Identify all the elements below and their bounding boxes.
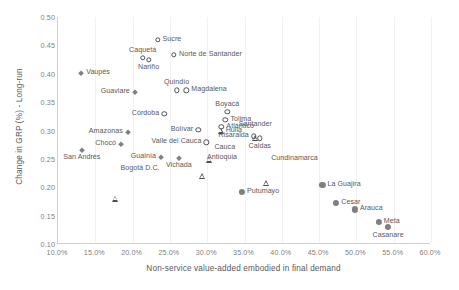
data-point-label: Guaviare xyxy=(101,89,130,96)
data-point-marker xyxy=(196,127,201,132)
x-tick-label: 40.0% xyxy=(270,248,291,257)
data-point-label: Magdalena xyxy=(191,87,227,94)
x-tick-label: 25.0% xyxy=(158,248,179,257)
y-axis-title: Change in GRP (%) - Long-run xyxy=(15,27,24,227)
x-tick-label: 15.0% xyxy=(84,248,105,257)
data-point-label: La Guajira xyxy=(327,182,360,189)
data-point-marker xyxy=(140,55,145,60)
data-point-marker xyxy=(155,37,160,42)
data-point-label: Putumayo xyxy=(247,189,279,196)
x-tick-label: 45.0% xyxy=(308,248,329,257)
plot-area: SucreCaquetáNariñoNorte de SantanderVaup… xyxy=(57,17,430,244)
data-point-label: Antioquia xyxy=(207,155,237,162)
data-point-label: Caquetá xyxy=(129,47,156,54)
data-point-label: Quindío xyxy=(164,79,189,86)
gridline-vertical xyxy=(319,17,320,243)
data-point-label: San Andrés xyxy=(63,154,100,161)
y-tick-label: 0.25 xyxy=(3,154,55,163)
y-tick-label: 0.45 xyxy=(3,41,55,50)
y-tick-label: 0.35 xyxy=(3,98,55,107)
y-tick-label: 0.40 xyxy=(3,69,55,78)
data-point-marker xyxy=(118,142,123,147)
data-point-marker xyxy=(257,136,262,141)
x-tick-label: 10.0% xyxy=(47,248,68,257)
y-axis-ticks: 0.100.150.200.250.300.350.400.450.50 xyxy=(0,17,55,244)
data-point-label: Valle del Cauca xyxy=(152,139,202,146)
data-point-marker xyxy=(79,147,84,152)
gridline-vertical xyxy=(431,17,432,243)
x-axis-title: Non-service value-added embodied in fina… xyxy=(57,264,430,273)
x-axis-ticks: 10.0%15.0%20.0%25.0%30.0%35.0%40.0%45.0%… xyxy=(0,248,459,260)
data-point-marker xyxy=(174,88,179,93)
y-tick-label: 0.50 xyxy=(3,13,55,22)
y-tick-label: 0.30 xyxy=(3,126,55,135)
data-point-marker xyxy=(79,71,84,76)
data-point-marker xyxy=(333,200,339,206)
x-tick-label: 30.0% xyxy=(196,248,217,257)
data-point-marker xyxy=(171,52,176,57)
data-point-marker xyxy=(125,129,130,134)
x-tick-label: 55.0% xyxy=(382,248,403,257)
gridline-vertical xyxy=(282,17,283,243)
data-point-label: Casanare xyxy=(373,232,404,239)
data-point-label: Vichada xyxy=(166,162,192,169)
data-point-label: Santander xyxy=(239,121,272,128)
data-point-label: Bolívar xyxy=(171,126,193,133)
x-tick-label: 35.0% xyxy=(233,248,254,257)
data-point-label: Risaralda xyxy=(218,133,248,140)
y-tick-label: 0.15 xyxy=(3,211,55,220)
gridline-vertical xyxy=(394,17,395,243)
data-point-marker xyxy=(184,88,189,93)
data-point-marker xyxy=(158,155,163,160)
data-point-label: Boyacá xyxy=(215,101,239,108)
data-point-label: Bogotá D.C. xyxy=(120,165,159,172)
data-point-label: Guainía xyxy=(131,154,156,161)
data-point-label: Cauca xyxy=(214,144,235,151)
data-point-marker xyxy=(204,140,209,145)
data-point-marker xyxy=(263,180,269,186)
data-point-label: Caldas xyxy=(249,143,271,150)
data-point-label: Amazonas xyxy=(89,128,123,135)
data-point-marker xyxy=(162,111,167,116)
x-tick-label: 60.0% xyxy=(420,248,441,257)
scatter-chart: 0.100.150.200.250.300.350.400.450.50 Suc… xyxy=(0,0,459,290)
data-point-marker xyxy=(176,155,181,160)
data-point-marker xyxy=(385,224,391,230)
data-point-label: Córdoba xyxy=(132,110,160,117)
data-point-label: Arauca xyxy=(360,206,383,213)
data-point-label: Norte de Santander xyxy=(179,51,242,58)
data-point-marker xyxy=(319,182,325,188)
data-point-label: Chocó xyxy=(95,141,116,148)
data-point-label: Cesar xyxy=(341,200,360,207)
data-point-label: Sucre xyxy=(163,36,182,43)
x-tick-label: 50.0% xyxy=(345,248,366,257)
data-point-label: Nariño xyxy=(138,64,159,71)
data-point-marker xyxy=(146,57,151,62)
y-tick-label: 0.20 xyxy=(3,183,55,192)
data-point-label: Vaupés xyxy=(86,70,110,77)
data-point-label: Cundinamarca xyxy=(271,156,318,163)
data-point-marker xyxy=(225,109,230,114)
data-point-marker xyxy=(376,218,382,224)
data-point-marker xyxy=(199,173,205,179)
x-tick-label: 20.0% xyxy=(121,248,142,257)
data-point-marker xyxy=(112,196,118,202)
